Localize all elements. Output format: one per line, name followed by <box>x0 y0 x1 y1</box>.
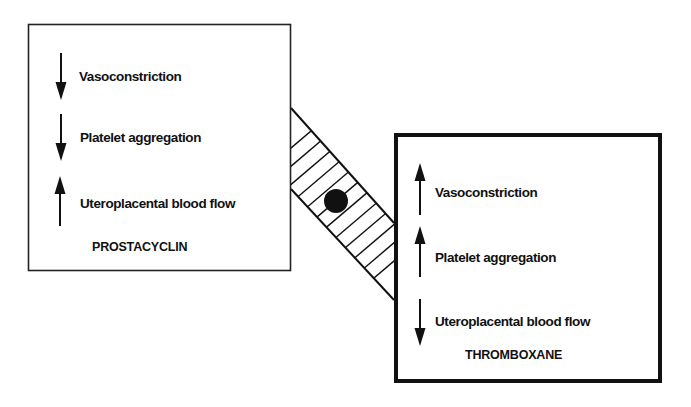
prostacyclin-effect-label: Vasoconstriction <box>79 69 182 84</box>
prostacyclin-box-border <box>29 25 291 271</box>
prostacyclin-effect-label: Platelet aggregation <box>80 130 201 145</box>
prostacyclin-effect-label: Uteroplacental blood flow <box>80 196 236 211</box>
thromboxane-effect-label: Vasoconstriction <box>435 185 538 200</box>
arrow-down-icon <box>56 53 67 100</box>
thromboxane-effect-label: Platelet aggregation <box>435 250 556 265</box>
prostacyclin-effect-uteroplacental-blood-flow: Uteroplacental blood flow <box>55 176 236 226</box>
thromboxane-effect-label: Uteroplacental blood flow <box>435 314 591 329</box>
prostacyclin-title: PROSTACYCLIN <box>92 240 187 254</box>
hatch-line <box>260 124 340 192</box>
prostacyclin-thromboxane-diagram: Vasoconstriction Platelet aggregation Ut… <box>0 0 691 407</box>
arrow-up-icon <box>55 176 66 226</box>
connector-dot-icon <box>324 189 348 213</box>
thromboxane-title: THROMBOXANE <box>465 348 562 362</box>
prostacyclin-box: Vasoconstriction Platelet aggregation Ut… <box>29 25 291 271</box>
prostacyclin-effect-platelet-aggregation: Platelet aggregation <box>56 114 202 161</box>
thromboxane-box: Vasoconstriction Platelet aggregation Ut… <box>396 135 660 381</box>
prostacyclin-effect-vasoconstriction: Vasoconstriction <box>56 53 182 100</box>
arrow-down-icon <box>56 114 67 161</box>
hatch-line <box>288 155 368 223</box>
hatch-line <box>307 176 387 244</box>
